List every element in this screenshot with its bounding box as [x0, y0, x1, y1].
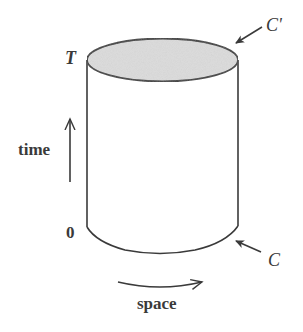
label-space-axis: space — [137, 294, 177, 313]
label-time-axis: time — [18, 140, 51, 159]
c-pointer-arrow-icon — [236, 241, 261, 252]
label-top-curve: C' — [266, 15, 283, 35]
label-bottom-time: 0 — [66, 223, 75, 242]
spacetime-cylinder-diagram: T 0 time space C' C — [0, 0, 303, 332]
label-top-time: T — [65, 48, 77, 68]
space-arrow-icon — [118, 282, 202, 287]
cylinder-bottom-curve — [87, 226, 238, 254]
c-prime-pointer-arrow-icon — [236, 27, 262, 43]
cylinder-top-ellipse — [87, 39, 238, 82]
label-bottom-curve: C — [268, 250, 281, 270]
